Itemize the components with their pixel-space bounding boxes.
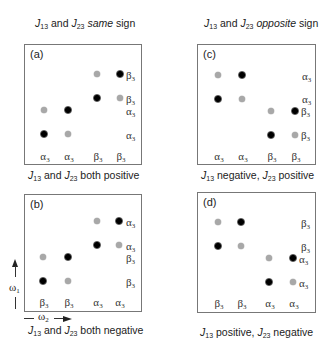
subscript: 1 — [16, 287, 20, 295]
spin-state-label: α3 — [126, 240, 135, 252]
spin-state-label: α3 — [302, 70, 311, 82]
cross-peak-light — [116, 242, 123, 249]
subscript: 3 — [132, 258, 136, 266]
cross-peak-dark — [64, 106, 72, 114]
cross-peak-light — [290, 279, 297, 286]
subscript: 2 — [45, 316, 49, 324]
subscript: 23 — [246, 23, 254, 30]
header-text: sign — [296, 17, 318, 29]
spin-state-label: β3 — [237, 297, 246, 309]
spin-state-label: α3 — [265, 297, 274, 309]
spin-state-label: β3 — [93, 150, 102, 162]
caption-panel-b: J13 and J23 both negative — [28, 324, 143, 336]
subscript: 3 — [220, 156, 224, 164]
subscript: 3 — [305, 259, 309, 267]
spin-state-label: β3 — [116, 150, 125, 162]
cross-peak-light — [65, 131, 72, 138]
cross-peak-light — [238, 243, 245, 250]
cross-peak-dark — [40, 130, 48, 138]
panel-c: (c) — [197, 44, 316, 165]
cross-peak-dark — [238, 71, 246, 79]
cross-peak-light — [292, 132, 299, 139]
subscript: 13 — [33, 330, 41, 337]
subscript: 3 — [307, 223, 311, 231]
cross-peak-dark — [93, 94, 101, 102]
cross-peak-dark — [64, 253, 72, 261]
spin-state-label: β3 — [301, 129, 310, 141]
cross-peak-light — [268, 108, 275, 115]
subscript: 3 — [99, 302, 103, 310]
cross-peak-dark — [237, 218, 245, 226]
subscript: 3 — [45, 302, 49, 310]
spin-state-label: α3 — [238, 150, 247, 162]
caption-panel-a: J13 and J23 both positive — [28, 169, 139, 181]
cross-peak-dark — [93, 241, 101, 249]
subscript: 3 — [132, 111, 136, 119]
subscript: 3 — [132, 282, 136, 290]
subscript: 3 — [46, 156, 50, 164]
cross-peak-light — [40, 254, 47, 261]
cross-peak-dark — [116, 70, 124, 78]
cross-peak-dark — [291, 107, 299, 115]
header-text: and — [217, 17, 240, 29]
subscript: 3 — [308, 76, 312, 84]
subscript: 13 — [33, 175, 41, 182]
spin-state-label: β3 — [301, 241, 310, 253]
spin-state-label: β3 — [126, 276, 135, 288]
cross-peak-light — [215, 219, 222, 226]
spin-state-label: β3 — [64, 296, 73, 308]
caption-text: both positive — [77, 169, 139, 181]
spin-state-label: β3 — [301, 105, 310, 117]
arrow-right-icon — [63, 316, 72, 322]
caption-text: positive, — [213, 326, 257, 338]
cross-peak-dark — [265, 278, 273, 286]
panel-label: (d) — [203, 196, 216, 208]
spin-state-label: α3 — [64, 150, 73, 162]
subscript: 3 — [122, 156, 126, 164]
subscript: 23 — [77, 23, 85, 30]
subscript: 3 — [99, 156, 103, 164]
omega2-label: ω2 — [38, 310, 49, 322]
spin-state-label: β3 — [301, 217, 310, 229]
cross-peak-light — [94, 218, 101, 225]
subscript: 3 — [70, 302, 74, 310]
spin-state-label: α3 — [302, 93, 311, 105]
subscript: 3 — [305, 283, 309, 291]
cross-peak-light — [117, 95, 124, 102]
subscript: 3 — [243, 303, 247, 311]
subscript: 3 — [132, 135, 136, 143]
spin-state-label: β3 — [291, 150, 300, 162]
subscript: 3 — [70, 156, 74, 164]
axis-line — [15, 297, 16, 309]
subscript: 3 — [295, 303, 299, 311]
panel-label: (a) — [30, 48, 43, 60]
subscript: 3 — [273, 156, 277, 164]
caption-text: negative — [270, 326, 313, 338]
panel-a: (a) — [24, 44, 142, 165]
header-text: and — [48, 17, 71, 29]
subscript: 3 — [220, 303, 224, 311]
caption-text: both negative — [77, 324, 143, 336]
panel-label: (c) — [203, 48, 216, 60]
header-text: sign — [113, 17, 135, 29]
spin-state-label: α3 — [126, 216, 135, 228]
spin-state-label: β3 — [126, 69, 135, 81]
spin-state-label: α3 — [214, 150, 223, 162]
spin-state-label: α3 — [115, 296, 124, 308]
subscript: 3 — [132, 222, 136, 230]
subscript: 13 — [209, 23, 217, 30]
subscript: 3 — [307, 135, 311, 143]
cross-peak-light — [94, 71, 101, 78]
caption-panel-c: J13 negative, J23 positive — [201, 169, 314, 181]
cross-peak-dark — [214, 95, 222, 103]
cross-peak-dark — [289, 254, 297, 262]
cross-peak-dark — [39, 277, 47, 285]
caption-text: negative, — [214, 169, 262, 181]
cross-peak-light — [239, 96, 246, 103]
spin-state-label: α3 — [299, 277, 308, 289]
subscript: 3 — [244, 156, 248, 164]
panel-label: (b) — [30, 198, 43, 210]
spin-state-label: α3 — [299, 253, 308, 265]
subscript: 3 — [307, 111, 311, 119]
spin-state-label: α3 — [40, 150, 49, 162]
